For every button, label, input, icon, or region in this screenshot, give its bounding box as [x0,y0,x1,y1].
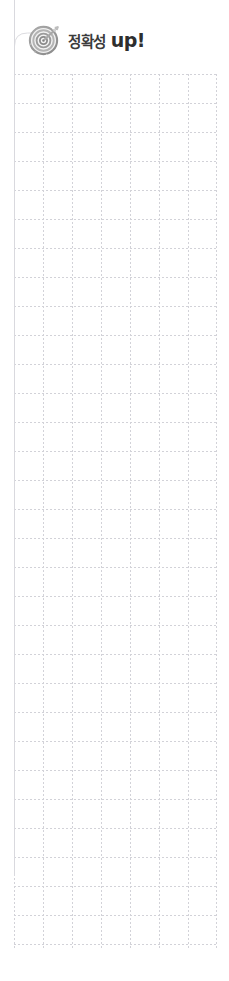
grid-line-horizontal [14,741,217,742]
grid-line-horizontal [14,132,217,133]
grid-left-border [14,0,15,876]
grid-line-horizontal [14,248,217,249]
grid-line-horizontal [14,625,217,626]
grid-line-vertical [159,74,160,950]
grid-line-horizontal [14,654,217,655]
title-english: up! [111,31,145,50]
grid-line-horizontal [14,422,217,423]
grid-line-horizontal [14,74,217,75]
grid-line-horizontal [14,683,217,684]
grid-line-horizontal [14,828,217,829]
grid-line-horizontal [14,857,217,858]
grid-line-vertical [72,74,73,950]
title-korean: 정확성 [68,35,106,50]
grid-line-horizontal [14,190,217,191]
grid-line-horizontal [14,103,217,104]
header-banner: 정확성 up! [0,0,229,74]
grid-line-horizontal [14,364,217,365]
grid-line-vertical [101,74,102,950]
grid-line-horizontal [14,393,217,394]
grid-line-horizontal [14,306,217,307]
grid-line-horizontal [14,277,217,278]
grid-line-horizontal [14,335,217,336]
grid-line-vertical [43,74,44,950]
grid-lattice [14,74,217,950]
grid-line-horizontal [14,770,217,771]
page-title: 정확성 up! [68,31,145,50]
grid-line-horizontal [14,161,217,162]
worksheet-page: 정확성 up! [0,0,229,981]
grid-line-horizontal [14,596,217,597]
grid-line-horizontal [14,915,217,916]
grid-line-horizontal [14,509,217,510]
header-content: 정확성 up! [26,20,145,60]
grid-line-horizontal [14,219,217,220]
grid-line-horizontal [14,538,217,539]
grid-line-horizontal [14,712,217,713]
grid-line-vertical [188,74,189,950]
grid-line-horizontal [14,799,217,800]
grid-line-horizontal [14,480,217,481]
grid-line-horizontal [14,886,217,887]
grid-line-horizontal [14,567,217,568]
grid-line-vertical [216,74,217,950]
target-dartboard-icon [26,22,62,58]
grid-line-horizontal [14,451,217,452]
grid-line-vertical [130,74,131,950]
grid-line-horizontal [14,944,217,945]
dotted-worksheet-grid [14,74,217,950]
